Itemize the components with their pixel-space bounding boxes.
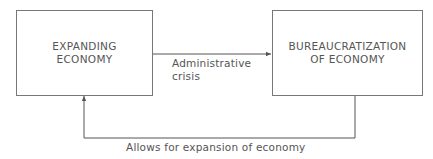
node-label-line2: OF ECONOMY bbox=[288, 53, 406, 66]
node-expanding-economy: EXPANDING ECONOMY bbox=[16, 10, 153, 96]
arrow-feedback bbox=[84, 95, 355, 138]
edge-label-line2: crisis bbox=[172, 70, 252, 83]
edge-label-administrative-crisis: Administrative crisis bbox=[172, 57, 252, 83]
node-label-line1: EXPANDING bbox=[52, 40, 116, 53]
node-bureaucratization-of-economy: BUREAUCRATIZATION OF ECONOMY bbox=[272, 10, 423, 96]
node-label-line2: ECONOMY bbox=[52, 53, 116, 66]
edge-label-feedback: Allows for expansion of economy bbox=[126, 141, 306, 154]
node-label-line1: BUREAUCRATIZATION bbox=[288, 40, 406, 53]
edge-label-line1: Administrative bbox=[172, 57, 252, 70]
